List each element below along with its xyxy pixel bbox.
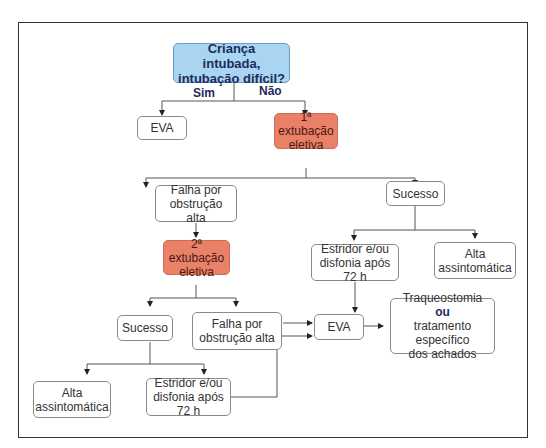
node-success-2: Sucesso [117, 315, 173, 341]
node-intubated-child-decision: Criança intubada, intubação difícil? [173, 43, 290, 83]
node-text: assintomática [35, 400, 108, 414]
node-text: Traqueostomia [403, 291, 483, 305]
node-text: disfonia após 72 h [316, 256, 394, 284]
node-text: Criança intubada, [178, 41, 285, 71]
node-stridor-dysphonia-2: Estridor e/ou disfonia após 72 h [146, 378, 231, 416]
node-text: Alta [62, 386, 83, 400]
node-text: EVA [150, 121, 173, 135]
node-text: Estridor e/ou [321, 242, 389, 256]
node-eva-top: EVA [137, 116, 187, 140]
node-text: dos achados [408, 347, 476, 361]
node-text: 2ª extubação [168, 237, 225, 265]
node-success-1: Sucesso [386, 181, 445, 206]
node-text: EVA [327, 320, 350, 334]
node-text: Falha por [212, 317, 263, 331]
node-text: disfonia após 72 h [151, 390, 226, 418]
node-text: assintomática [438, 261, 511, 275]
node-second-elective-extubation: 2ª extubação eletiva [163, 240, 230, 275]
node-text: Estridor e/ou [154, 376, 222, 390]
node-high-obstruction-failure-2: Falha por obstrução alta [192, 312, 282, 350]
node-text: obstrução alta [160, 197, 232, 225]
node-asymptomatic-discharge-1: Alta assintomática [434, 242, 516, 279]
node-text: Sucesso [122, 321, 168, 335]
node-high-obstruction-failure-1: Falha por obstrução alta [155, 185, 237, 222]
node-stridor-dysphonia-1: Estridor e/ou disfonia após 72 h [311, 244, 399, 281]
node-text: eletiva [289, 138, 324, 152]
node-text: eletiva [179, 265, 214, 279]
node-tracheostomy-or-treatment: Traqueostomia ou tratamento específico d… [390, 298, 495, 354]
edge-label-yes: Sim [193, 86, 215, 100]
node-text: tratamento específico [395, 319, 490, 347]
node-text-or: ou [435, 305, 450, 319]
edge-label-no: Não [259, 84, 282, 98]
node-text: Falha por [171, 183, 222, 197]
node-text: obstrução alta [199, 331, 274, 345]
node-eva-bottom: EVA [314, 314, 364, 340]
node-text: Alta [465, 247, 486, 261]
node-asymptomatic-discharge-2: Alta assintomática [33, 381, 111, 418]
node-text: 1ª extubação [278, 110, 333, 138]
node-text: Sucesso [392, 187, 438, 201]
node-first-elective-extubation: 1ª extubação eletiva [274, 113, 338, 149]
